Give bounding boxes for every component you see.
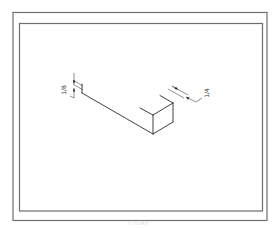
outer-border xyxy=(13,13,267,221)
extension-line-left xyxy=(140,108,153,115)
dimension-thickness: 1/8 xyxy=(60,73,83,98)
dim-extension-line xyxy=(168,89,184,98)
dim-label-width: 1/4 xyxy=(203,88,210,98)
dim-label-thickness: 1/8 xyxy=(60,85,67,95)
arrow-right-icon xyxy=(175,87,179,90)
isometric-bar xyxy=(82,84,173,134)
bottom-right-edge xyxy=(153,122,173,134)
extension-line-right xyxy=(160,96,173,104)
inner-border xyxy=(20,24,263,212)
dimension-width: 1/4 xyxy=(168,86,210,102)
leader-line xyxy=(70,96,74,98)
long-edge xyxy=(82,93,153,134)
top-front-edge xyxy=(153,103,173,115)
leader-line xyxy=(196,98,202,102)
drawing-canvas: 1/8 1/4 xyxy=(0,0,278,228)
arrow-down-icon xyxy=(73,81,75,85)
arrow-up-icon xyxy=(73,88,75,92)
figure-caption: FIGURE xyxy=(0,221,278,226)
